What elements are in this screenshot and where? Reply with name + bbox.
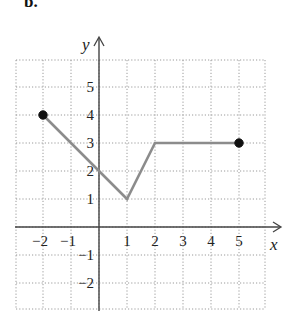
x-tick-label: 5	[235, 233, 243, 249]
x-tick-label: −1	[60, 233, 76, 249]
x-axis-label: x	[269, 235, 278, 254]
x-tick-label: 1	[123, 233, 131, 249]
y-tick-label: −1	[78, 247, 94, 263]
graph-line	[43, 115, 239, 199]
x-tick-label: 4	[207, 233, 215, 249]
endpoint-dot	[39, 111, 47, 119]
y-tick-label: 1	[87, 191, 95, 207]
x-tick-label: 3	[179, 233, 187, 249]
y-axis-label: y	[80, 35, 90, 54]
grid-lines	[16, 60, 265, 309]
y-tick-label: 5	[87, 79, 95, 95]
y-tick-label: 3	[87, 135, 95, 151]
x-tick-label: 2	[151, 233, 159, 249]
y-tick-label: −2	[78, 275, 94, 291]
y-tick-label: 4	[87, 107, 95, 123]
endpoint-dot	[235, 139, 243, 147]
data-series	[39, 111, 243, 199]
coordinate-plane: xy −2−112345−2−112345	[0, 0, 294, 326]
x-tick-label: −2	[32, 233, 48, 249]
axes: xy	[15, 35, 281, 311]
